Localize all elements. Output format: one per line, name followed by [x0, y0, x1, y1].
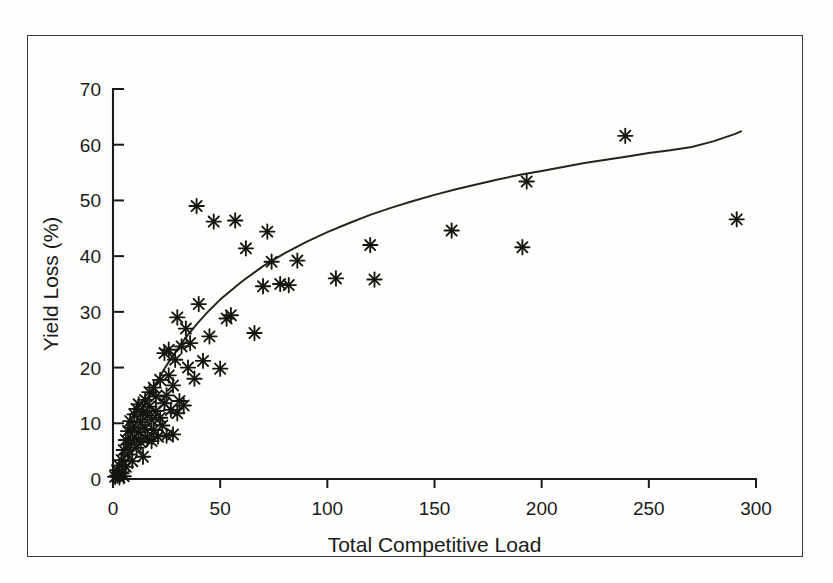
data-point-marker — [329, 271, 343, 285]
data-point-marker — [207, 214, 221, 228]
data-point-marker — [187, 372, 201, 386]
y-axis-tick-labels: 010203040506070 — [80, 79, 101, 490]
x-axis-title: Total Competitive Load — [328, 533, 542, 556]
figure-page: 050100150200250300 010203040506070 Total… — [0, 0, 833, 583]
data-point-marker — [192, 297, 206, 311]
fitted-curve — [113, 131, 741, 479]
data-point-marker — [166, 378, 180, 392]
data-point-marker — [170, 310, 184, 324]
x-tick-label: 300 — [740, 498, 772, 519]
axis-lines — [113, 89, 756, 479]
x-tick-label: 50 — [210, 498, 231, 519]
data-point-marker — [177, 398, 191, 412]
y-tick-label: 30 — [80, 302, 101, 323]
y-tick-label: 10 — [80, 413, 101, 434]
data-point-marker — [196, 354, 210, 368]
data-point-marker — [239, 241, 253, 255]
data-point-marker — [170, 406, 184, 420]
data-point-marker — [189, 199, 203, 213]
y-tick-label: 20 — [80, 358, 101, 379]
data-point-marker — [264, 255, 278, 269]
data-point-markers — [108, 129, 744, 485]
x-tick-label: 200 — [526, 498, 558, 519]
data-point-marker — [117, 469, 131, 483]
data-point-marker — [290, 253, 304, 267]
x-tick-label: 250 — [633, 498, 665, 519]
data-point-marker — [183, 336, 197, 350]
data-point-marker — [213, 361, 227, 375]
x-tick-label: 100 — [311, 498, 343, 519]
y-tick-label: 0 — [90, 469, 101, 490]
data-point-marker — [136, 450, 150, 464]
data-point-marker — [228, 213, 242, 227]
data-point-marker — [519, 174, 533, 188]
x-tick-label: 150 — [419, 498, 451, 519]
y-tick-label: 60 — [80, 135, 101, 156]
data-point-marker — [162, 343, 176, 357]
data-point-marker — [166, 427, 180, 441]
y-axis-title: Yield Loss (%) — [39, 217, 62, 352]
y-tick-label: 40 — [80, 246, 101, 267]
data-point-marker — [247, 326, 261, 340]
data-point-marker — [149, 389, 163, 403]
data-point-marker — [202, 329, 216, 343]
data-point-marker — [730, 212, 744, 226]
data-point-marker — [444, 223, 458, 237]
data-point-marker — [179, 321, 193, 335]
data-point-marker — [367, 272, 381, 286]
x-axis-tick-labels: 050100150200250300 — [108, 498, 772, 519]
data-point-marker — [168, 353, 182, 367]
data-point-marker — [224, 308, 238, 322]
data-point-marker — [515, 240, 529, 254]
scatter-plot: 050100150200250300 010203040506070 Total… — [28, 36, 804, 558]
y-tick-label: 50 — [80, 190, 101, 211]
data-point-marker — [618, 129, 632, 143]
x-tick-label: 0 — [108, 498, 119, 519]
data-point-marker — [363, 238, 377, 252]
data-point-marker — [256, 279, 270, 293]
y-tick-label: 70 — [80, 79, 101, 100]
data-point-marker — [282, 278, 296, 292]
data-point-marker — [181, 360, 195, 374]
figure-frame: 050100150200250300 010203040506070 Total… — [27, 35, 803, 557]
data-point-marker — [260, 224, 274, 238]
x-axis-tick-marks — [113, 479, 756, 488]
